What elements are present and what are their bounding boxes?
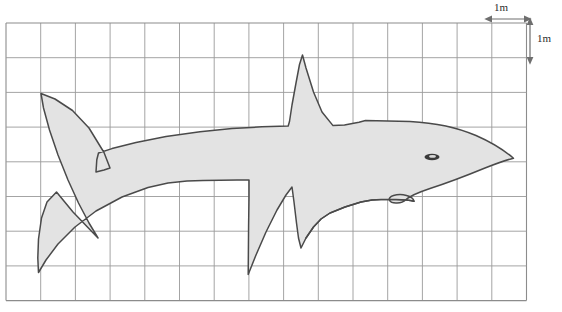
shark-grid-figure	[0, 0, 562, 312]
shark-eye-highlight	[429, 155, 436, 158]
vertical-scale-label: 1m	[537, 33, 551, 44]
horizontal-scale-label: 1m	[494, 2, 508, 13]
figure-page: 1m 1m	[0, 0, 562, 312]
